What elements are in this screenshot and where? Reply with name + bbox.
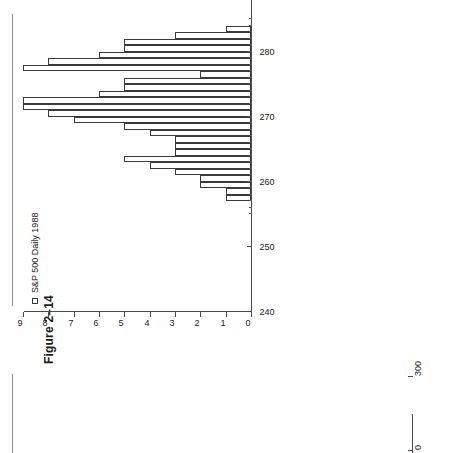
histogram-chart: S&P 500 Daily 1988 240250260270280290300… [24, 84, 414, 312]
freq-tick-label-9: 9 [17, 318, 22, 328]
value-minor-tick-271 [249, 110, 252, 111]
histogram-bar [200, 72, 251, 79]
value-minor-tick-285 [249, 19, 252, 20]
bottom-tick-300 [408, 376, 413, 377]
frequency-axis-line [24, 311, 252, 312]
value-minor-tick-274 [249, 90, 252, 91]
histogram-bar [124, 78, 251, 85]
freq-tick-2 [200, 312, 201, 317]
value-minor-tick-273 [249, 97, 252, 98]
histogram-bar [200, 176, 251, 183]
freq-tick-6 [99, 312, 100, 317]
histogram-bar [48, 59, 251, 66]
freq-tick-1 [226, 312, 227, 317]
value-minor-tick-262 [249, 168, 252, 169]
histogram-bar [150, 130, 251, 137]
value-minor-tick-277 [249, 71, 252, 72]
value-minor-tick-279 [249, 58, 252, 59]
freq-tick-7 [74, 312, 75, 317]
value-axis-line [251, 0, 252, 312]
freq-tick-0 [251, 312, 252, 317]
value-minor-tick-284 [249, 25, 252, 26]
histogram-bar [150, 163, 251, 170]
freq-tick-label-0: 0 [245, 318, 250, 328]
value-minor-tick-268 [249, 129, 252, 130]
value-minor-tick-272 [249, 103, 252, 104]
chart-legend: S&P 500 Daily 1988 [30, 213, 40, 304]
value-tick-label-260: 260 [259, 177, 274, 187]
value-minor-tick-276 [249, 77, 252, 78]
histogram-bar [99, 91, 251, 98]
value-minor-tick-265 [249, 149, 252, 150]
histogram-bar [200, 182, 251, 189]
freq-tick-label-2: 2 [195, 318, 200, 328]
histogram-bar [175, 137, 251, 144]
value-minor-tick-267 [249, 136, 252, 137]
histogram-bar [124, 85, 251, 92]
value-minor-tick-260 [249, 181, 252, 182]
freq-tick-label-3: 3 [169, 318, 174, 328]
value-minor-tick-282 [249, 38, 252, 39]
histogram-bar [175, 150, 251, 157]
histogram-bar [175, 33, 251, 40]
value-minor-tick-258 [249, 194, 252, 195]
value-minor-tick-257 [249, 201, 252, 202]
freq-tick-8 [48, 312, 49, 317]
freq-tick-label-1: 1 [220, 318, 225, 328]
histogram-bar [175, 169, 251, 176]
histogram-bar [124, 46, 251, 53]
value-tick-label-280: 280 [259, 47, 274, 57]
histogram-bar [48, 111, 251, 118]
value-minor-tick-281 [249, 45, 252, 46]
plot-area: S&P 500 Daily 1988 240250260270280290300… [24, 0, 252, 312]
histogram-bar [99, 52, 251, 59]
value-minor-tick-255 [249, 214, 252, 215]
histogram-bar [226, 195, 251, 202]
freq-tick-4 [150, 312, 151, 317]
value-minor-tick-264 [249, 155, 252, 156]
bottom-tick-label-300: 300 [413, 361, 423, 376]
value-minor-tick-269 [249, 123, 252, 124]
value-minor-tick-261 [249, 175, 252, 176]
histogram-bar [23, 98, 251, 105]
histogram-bar [74, 117, 251, 124]
histogram-bar [175, 143, 251, 150]
histogram-bar [23, 104, 251, 111]
histogram-bar [124, 39, 251, 46]
freq-tick-label-6: 6 [93, 318, 98, 328]
freq-tick-5 [124, 312, 125, 317]
histogram-bar [226, 189, 251, 196]
value-minor-tick-283 [249, 32, 252, 33]
histogram-bar [23, 65, 251, 72]
histogram-bar [124, 156, 251, 163]
value-minor-tick-266 [249, 142, 252, 143]
next-figure-partial: 300 0 [0, 374, 449, 453]
scanned-page: Figure 2–14 S&P 500 Daily 1988 240250260… [0, 0, 449, 453]
freq-tick-9 [23, 312, 24, 317]
value-minor-tick-256 [249, 207, 252, 208]
legend-label: S&P 500 Daily 1988 [30, 213, 40, 293]
freq-tick-label-5: 5 [119, 318, 124, 328]
histogram-bar [124, 124, 251, 131]
freq-tick-3 [175, 312, 176, 317]
histogram-bar [226, 26, 251, 33]
value-tick-label-270: 270 [259, 112, 274, 122]
freq-tick-label-4: 4 [144, 318, 149, 328]
value-tick-label-240: 240 [259, 307, 274, 317]
bottom-tick-0 [408, 450, 413, 451]
value-tick-label-250: 250 [259, 242, 274, 252]
value-minor-tick-259 [249, 188, 252, 189]
freq-tick-label-8: 8 [43, 318, 48, 328]
value-minor-tick-280 [249, 51, 252, 52]
bottom-tick-label-0: 0 [413, 445, 423, 450]
value-minor-tick-278 [249, 64, 252, 65]
legend-marker-icon [32, 298, 38, 304]
value-minor-tick-275 [249, 84, 252, 85]
value-minor-tick-270 [249, 116, 252, 117]
value-minor-tick-263 [249, 162, 252, 163]
freq-tick-label-7: 7 [68, 318, 73, 328]
value-tick-250 [247, 246, 252, 247]
